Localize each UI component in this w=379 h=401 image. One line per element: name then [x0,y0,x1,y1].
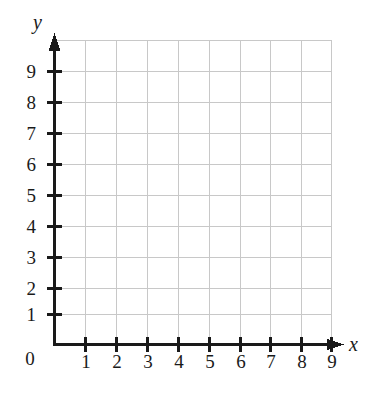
y-tick-label-3: 3 [16,248,36,267]
gridlines-horizontal [54,41,332,315]
y-tick-label-7: 7 [16,124,36,143]
axis-lines [50,35,343,350]
x-axis-arrowhead [327,340,342,350]
y-axis-label: y [33,12,42,32]
origin-label: 0 [20,349,40,368]
x-tick-label-2: 2 [107,352,127,371]
y-tick-label-5: 5 [16,186,36,205]
y-axis-arrowhead [50,35,60,50]
y-tick-label-8: 8 [16,93,36,112]
x-tick-label-9: 9 [322,352,342,371]
y-tick-label-9: 9 [16,62,36,81]
x-tick-label-3: 3 [138,352,158,371]
y-tick-label-1: 1 [16,305,36,324]
x-tick-label-5: 5 [200,352,220,371]
x-tick-label-4: 4 [169,352,189,371]
x-tick-label-7: 7 [261,352,281,371]
y-tick-label-4: 4 [16,217,36,236]
grid-canvas [0,0,379,401]
coordinate-grid-figure: y x 0 1 2 3 4 5 6 7 8 9 9 8 7 6 5 4 3 2 … [0,0,379,401]
y-tick-label-6: 6 [16,155,36,174]
x-tick-label-6: 6 [231,352,251,371]
x-tick-label-8: 8 [292,352,312,371]
gridlines-vertical [55,40,332,345]
y-tick-label-2: 2 [16,279,36,298]
x-axis-label: x [349,334,358,354]
x-tick-label-1: 1 [76,352,96,371]
